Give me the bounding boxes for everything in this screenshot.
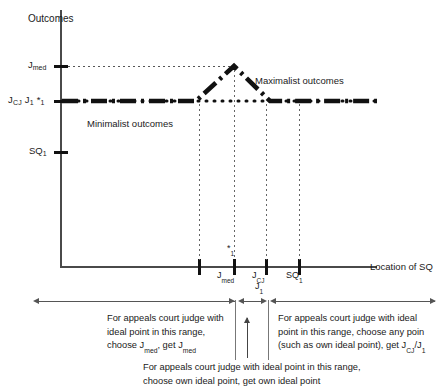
figure-canvas: Outcomes Jmed JCJ J1 *1 SQ1 Jmed JCJ J1 … [0,0,443,392]
note-left-line3-sub-a: med [144,347,157,354]
label-minimalist-outcomes: Minimalist outcomes [87,118,173,129]
note-left-line3-b: , get J [157,340,182,350]
bracket-mid-arrow-end [261,298,267,304]
bracket-divider-right [268,300,269,360]
bracket-right-line [275,301,435,302]
note-center-line2: choose own ideal point, get own ideal po… [143,375,413,389]
note-left-line2: ideal point in this range, [107,326,239,340]
note-right-line1: For appeals court judge with ideal [278,312,443,326]
bracket-right-arrow-end [430,298,436,304]
center-range-arrow [247,318,248,358]
bracket-left-line [38,301,235,302]
note-right-range: For appeals court judge with ideal point… [278,312,443,355]
note-left-line3-a: choose J [107,340,144,350]
note-right-line2: point in this range, choose any poin [278,326,443,340]
note-left-line1: For appeals court judge with [107,312,239,326]
label-maximalist-outcomes: Maximalist outcomes [255,75,344,86]
note-center-range: For appeals court judge with ideal point… [143,361,413,388]
note-right-line3-sub-b: 1 [422,347,426,354]
note-right-line3-a: (such as own ideal point), get J [278,340,406,350]
note-left-line3-sub-b: med [183,347,196,354]
note-center-line1: For appeals court judge with ideal point… [143,361,413,375]
range-brackets [0,296,443,308]
note-left-range: For appeals court judge with ideal point… [107,312,239,355]
note-right-line3-sub-a: CJ [406,347,414,354]
note-right-line3: (such as own ideal point), get JCJ/J1 [278,339,443,355]
note-left-line3: choose Jmed, get Jmed [107,339,239,355]
note-right-line3-b: /J [414,340,421,350]
